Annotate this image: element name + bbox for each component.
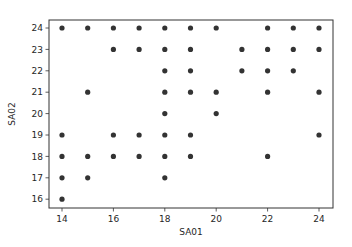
y-tick-label: 19 xyxy=(32,130,44,140)
data-point xyxy=(291,25,296,30)
data-point xyxy=(239,68,244,73)
data-point xyxy=(265,154,270,159)
data-point xyxy=(111,47,116,52)
data-point xyxy=(59,25,64,30)
data-point xyxy=(188,47,193,52)
data-point xyxy=(111,154,116,159)
data-point xyxy=(111,132,116,137)
y-tick-label: 22 xyxy=(32,66,43,76)
data-point xyxy=(85,90,90,95)
y-axis-ticks: 161718192021222324 xyxy=(32,23,49,204)
data-point xyxy=(265,25,270,30)
data-point xyxy=(162,111,167,116)
x-tick-label: 24 xyxy=(313,214,325,224)
data-point xyxy=(265,47,270,52)
data-point xyxy=(59,154,64,159)
data-point xyxy=(291,68,296,73)
data-point xyxy=(188,68,193,73)
data-point xyxy=(111,25,116,30)
data-point xyxy=(188,90,193,95)
data-point xyxy=(316,25,321,30)
data-point xyxy=(85,154,90,159)
data-point xyxy=(214,90,219,95)
data-point xyxy=(137,47,142,52)
data-point xyxy=(59,175,64,180)
data-point xyxy=(137,154,142,159)
data-point xyxy=(188,132,193,137)
x-tick-label: 20 xyxy=(210,214,222,224)
y-tick-label: 20 xyxy=(32,109,44,119)
data-point xyxy=(162,47,167,52)
data-point xyxy=(162,132,167,137)
data-point xyxy=(316,90,321,95)
data-point xyxy=(188,25,193,30)
data-point xyxy=(59,132,64,137)
data-point xyxy=(162,154,167,159)
data-point xyxy=(265,68,270,73)
data-point xyxy=(265,90,270,95)
data-point xyxy=(162,68,167,73)
data-point xyxy=(59,197,64,202)
data-point xyxy=(162,25,167,30)
x-tick-label: 18 xyxy=(159,214,171,224)
data-point xyxy=(316,132,321,137)
y-tick-label: 24 xyxy=(32,23,44,33)
y-tick-label: 16 xyxy=(32,194,44,204)
x-axis-ticks: 141618202224 xyxy=(56,208,325,224)
data-point xyxy=(85,25,90,30)
y-tick-label: 21 xyxy=(32,87,43,97)
data-point xyxy=(85,175,90,180)
scatter-chart: 141618202224 161718192021222324 SA01 SA0… xyxy=(0,0,352,247)
x-tick-label: 22 xyxy=(262,214,273,224)
data-point xyxy=(291,47,296,52)
data-point xyxy=(214,25,219,30)
y-tick-label: 18 xyxy=(32,152,44,162)
x-tick-label: 16 xyxy=(108,214,120,224)
data-point xyxy=(316,47,321,52)
x-tick-label: 14 xyxy=(56,214,68,224)
data-point xyxy=(162,90,167,95)
data-point xyxy=(137,132,142,137)
data-point xyxy=(188,154,193,159)
data-point xyxy=(137,25,142,30)
data-point xyxy=(214,111,219,116)
y-axis-label: SA02 xyxy=(7,102,17,126)
x-axis-label: SA01 xyxy=(179,227,203,237)
y-tick-label: 23 xyxy=(32,45,43,55)
y-tick-label: 17 xyxy=(32,173,43,183)
data-point xyxy=(239,47,244,52)
data-point xyxy=(162,175,167,180)
